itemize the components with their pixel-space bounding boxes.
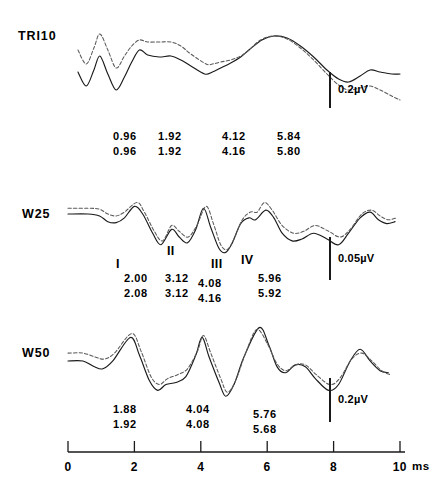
latency-tri10-r2-c3: 4.16 bbox=[222, 146, 246, 157]
latency-w25-r1-c1: 2.00 bbox=[124, 273, 148, 284]
latency-w25-r2-c1: 2.08 bbox=[124, 288, 148, 299]
peak-label-w25-II: II bbox=[167, 245, 175, 258]
peak-label-w25-I: I bbox=[116, 258, 120, 271]
latency-w50-r1-c2: 4.04 bbox=[186, 404, 210, 415]
waveform-trace-w50-solid bbox=[68, 327, 388, 396]
axis-tick-label-8: 8 bbox=[330, 461, 337, 473]
latency-w50-r2-c2: 4.08 bbox=[186, 419, 210, 430]
axis-unit-label: ms bbox=[412, 461, 429, 473]
latency-w50-r2-c1: 1.92 bbox=[113, 419, 137, 430]
peak-label-w25-III: III bbox=[211, 258, 223, 271]
scale-bar-label-tri10: 0.2µV bbox=[338, 84, 368, 95]
axis-tick-label-2: 2 bbox=[131, 461, 138, 473]
latency-w25-r2-c4: 5.92 bbox=[258, 288, 282, 299]
waveform-trace-tri10-solid bbox=[78, 36, 400, 90]
latency-tri10-r1-c2: 1.92 bbox=[158, 131, 182, 142]
panel-title-w50: W50 bbox=[22, 347, 50, 360]
latency-w25-r1-c3: 4.08 bbox=[198, 278, 222, 289]
waveform-plot-area bbox=[0, 0, 446, 478]
waveform-trace-w50-dashed bbox=[68, 329, 390, 392]
panel-title-tri10: TRI10 bbox=[18, 30, 57, 43]
axis-tick-label-0: 0 bbox=[64, 461, 71, 473]
axis-tick-label-6: 6 bbox=[264, 461, 271, 473]
waveform-trace-w25-solid bbox=[68, 206, 395, 253]
latency-tri10-r1-c3: 4.12 bbox=[222, 131, 246, 142]
latency-tri10-r1-c1: 0.96 bbox=[113, 131, 137, 142]
latency-tri10-r2-c1: 0.96 bbox=[113, 146, 137, 157]
latency-w25-r2-c2: 3.12 bbox=[165, 288, 189, 299]
latency-tri10-r2-c2: 1.92 bbox=[158, 146, 182, 157]
latency-w25-r1-c4: 5.96 bbox=[258, 273, 282, 284]
latency-w50-r1-c3: 5.76 bbox=[253, 409, 277, 420]
waveform-figure: TRI10 W25 W50 0.2µV 0.05µV 0.2µV 0.96 1.… bbox=[0, 0, 446, 478]
latency-tri10-r1-c4: 5.84 bbox=[277, 131, 301, 142]
scale-bar-label-w25: 0.05µV bbox=[338, 253, 374, 264]
latency-w50-r1-c1: 1.88 bbox=[113, 404, 137, 415]
latency-tri10-r2-c4: 5.80 bbox=[277, 146, 301, 157]
waveform-trace-w25-dashed bbox=[68, 202, 397, 249]
latency-w50-r2-c3: 5.68 bbox=[253, 424, 277, 435]
latency-w25-r2-c3: 4.16 bbox=[198, 293, 222, 304]
scale-bar-label-w50: 0.2µV bbox=[338, 394, 368, 405]
axis-tick-label-4: 4 bbox=[197, 461, 204, 473]
time-axis bbox=[68, 441, 405, 452]
peak-label-w25-IV: IV bbox=[241, 254, 254, 267]
axis-tick-label-10: 10 bbox=[393, 461, 407, 473]
panel-title-w25: W25 bbox=[22, 208, 50, 221]
latency-w25-r1-c2: 3.12 bbox=[165, 273, 189, 284]
